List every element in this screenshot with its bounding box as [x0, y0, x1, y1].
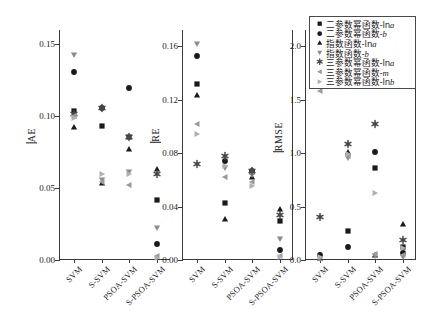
x-tick — [348, 259, 349, 263]
legend-marker-icon — [313, 20, 326, 27]
y-tick-label: 0.16 — [162, 42, 178, 51]
data-point — [192, 119, 201, 128]
y-tick-label: 1.0 — [290, 149, 301, 158]
data-point — [399, 244, 408, 253]
y-tick-label: 1.5 — [290, 95, 301, 104]
y-tick — [55, 188, 60, 189]
data-point — [248, 167, 257, 176]
data-point — [153, 223, 162, 232]
y-tick — [301, 100, 306, 101]
axis-title-rmse: RMSE — [273, 122, 284, 152]
data-point — [97, 178, 106, 187]
data-point — [153, 240, 162, 249]
legend-marker-icon — [313, 39, 326, 46]
y-tick — [301, 153, 306, 154]
data-point — [371, 164, 380, 173]
y-tick — [301, 207, 306, 208]
data-point — [153, 253, 162, 262]
data-point — [343, 227, 352, 236]
y-tick — [55, 44, 60, 45]
data-point — [69, 123, 78, 132]
plotarea-ae: 0.000.050.100.15SVMS-SVMPSOA-SVMS-PSOA-S… — [60, 30, 170, 259]
x-tick — [74, 259, 75, 263]
y-tick — [178, 46, 183, 47]
y-tick-label: 0.5 — [290, 202, 301, 211]
x-tick-label: S-SVM — [209, 264, 235, 290]
data-point — [69, 67, 78, 76]
data-point — [315, 213, 324, 222]
data-point — [399, 219, 408, 228]
x-tick-label: SVM — [64, 264, 84, 284]
data-point — [276, 210, 285, 219]
y-tick-label: 0.04 — [162, 202, 178, 211]
y-tick — [178, 153, 183, 154]
data-point — [343, 150, 352, 159]
y-tick-label: 0.08 — [162, 149, 178, 158]
data-point — [220, 214, 229, 223]
y-tick-label: 0.00 — [162, 256, 178, 265]
data-point — [276, 253, 285, 262]
data-point — [125, 170, 134, 179]
chart-figure: 0.000.050.100.15SVMS-SVMPSOA-SVMS-PSOA-S… — [0, 0, 423, 331]
x-tick-label: SVM — [310, 264, 330, 284]
y-tick-label: 0.12 — [162, 95, 178, 104]
data-point — [220, 162, 229, 171]
data-point — [220, 198, 229, 207]
data-point — [192, 52, 201, 61]
data-point — [220, 151, 229, 160]
x-tick — [225, 259, 226, 263]
x-tick-label: S-SVM — [332, 264, 358, 290]
legend-item: 三参数幂函数-lnb — [313, 77, 411, 87]
legend-label: 三参数幂函数-lnb — [326, 75, 394, 87]
y-tick-label: 0.05 — [39, 184, 55, 193]
data-point — [153, 195, 162, 204]
data-point — [192, 80, 201, 89]
data-point — [69, 51, 78, 60]
data-point — [371, 249, 380, 258]
data-point — [371, 120, 380, 129]
data-point — [315, 252, 324, 261]
y-tick — [55, 116, 60, 117]
legend-marker-icon — [313, 78, 326, 85]
data-point — [192, 160, 201, 169]
x-tick — [197, 259, 198, 263]
legend-marker-icon — [313, 68, 326, 75]
data-point — [371, 147, 380, 156]
x-tick — [129, 259, 130, 263]
y-tick — [178, 207, 183, 208]
data-point — [97, 104, 106, 113]
x-tick-label: S-SVM — [86, 264, 112, 290]
data-point — [125, 181, 134, 190]
y-tick-label: 0.15 — [39, 40, 55, 49]
y-tick-label: 0.00 — [39, 256, 55, 265]
y-tick — [178, 260, 183, 261]
data-point — [276, 234, 285, 243]
y-tick — [301, 260, 306, 261]
data-point — [153, 170, 162, 179]
legend-marker-icon — [313, 58, 326, 65]
data-point — [125, 133, 134, 142]
data-point — [343, 140, 352, 149]
data-point — [97, 122, 106, 131]
x-tick-label: SVM — [187, 264, 207, 284]
y-tick-label: 2.0 — [290, 42, 301, 51]
data-point — [125, 145, 134, 154]
y-tick — [178, 100, 183, 101]
panel-ae: 0.000.050.100.15SVMS-SVMPSOA-SVMS-PSOA-S… — [59, 30, 170, 260]
y-tick-label: 0.0 — [290, 256, 301, 265]
data-point — [343, 243, 352, 252]
legend: 二参数幂函数-lna二参数幂函数-b指数函数-lna指数函数-b三参数幂函数-l… — [309, 16, 416, 89]
data-point — [97, 169, 106, 178]
legend-marker-icon — [313, 49, 326, 56]
data-point — [192, 129, 201, 138]
data-point — [371, 188, 380, 197]
data-point — [192, 90, 201, 99]
y-tick — [55, 260, 60, 261]
y-tick — [301, 46, 306, 47]
axis-title-ae: AE — [26, 128, 37, 143]
x-tick — [252, 259, 253, 263]
y-tick-label: 0.10 — [39, 112, 55, 121]
data-point — [125, 83, 134, 92]
axis-title-re: RE — [150, 128, 161, 143]
data-point — [69, 113, 78, 122]
